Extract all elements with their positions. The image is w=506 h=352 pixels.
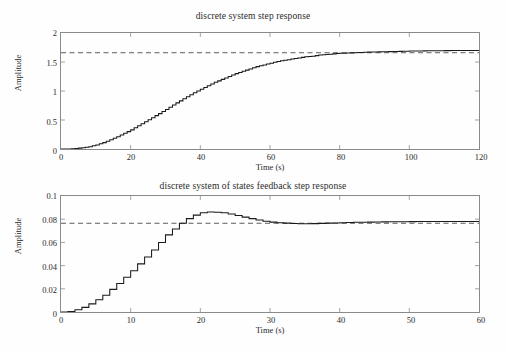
plot-area-bottom: 010203040506000.020.040.060.080.1 <box>60 195 480 313</box>
chart-title-bottom: discrete system of states feedback step … <box>0 181 506 191</box>
x-axis-label-top: Time (s) <box>60 162 480 172</box>
chart-discrete-system-step-response: discrete system step response Amplitude … <box>0 0 506 176</box>
x-axis-label-bottom: Time (s) <box>60 325 480 335</box>
x-tick-label: 50 <box>407 315 416 325</box>
x-tick-label: 0 <box>59 152 63 162</box>
data-series-line <box>61 212 479 312</box>
x-tick-label: 40 <box>337 315 346 325</box>
x-tick-label: 0 <box>59 315 63 325</box>
x-tick-label: 120 <box>475 152 488 162</box>
x-tick-label: 60 <box>267 152 276 162</box>
x-tick-label: 30 <box>267 315 276 325</box>
x-tick-label: 40 <box>197 152 206 162</box>
y-tick-label: 2 <box>53 28 57 38</box>
y-tick-label: 0 <box>53 309 57 319</box>
x-tick-label: 60 <box>477 315 486 325</box>
y-axis-label-bottom: Amplitude <box>13 206 23 266</box>
y-tick-label: 0.06 <box>42 238 57 248</box>
x-tick-label: 20 <box>127 152 136 162</box>
y-tick-label: 0.02 <box>42 285 57 295</box>
y-tick-label: 0.08 <box>42 215 57 225</box>
plot-area-top: 02040608010012000.511.52 <box>60 32 480 150</box>
y-tick-label: 1.5 <box>46 58 57 68</box>
y-tick-label: 1 <box>53 87 57 97</box>
figure-page: discrete system step response Amplitude … <box>0 0 506 352</box>
chart-title-top: discrete system step response <box>0 11 506 21</box>
y-tick-label: 0.04 <box>42 262 57 272</box>
y-tick-label: 0.5 <box>46 117 57 127</box>
plot-canvas-bottom <box>61 196 479 312</box>
y-axis-label-top: Amplitude <box>13 43 23 103</box>
y-tick-label: 0 <box>53 146 57 156</box>
x-tick-label: 80 <box>337 152 346 162</box>
x-tick-label: 20 <box>197 315 206 325</box>
y-tick-label: 0.1 <box>46 191 57 201</box>
chart-states-feedback-step-response: discrete system of states feedback step … <box>0 176 506 352</box>
x-tick-label: 100 <box>405 152 418 162</box>
x-tick-label: 10 <box>127 315 136 325</box>
data-series-line <box>61 50 479 149</box>
plot-canvas-top <box>61 33 479 149</box>
